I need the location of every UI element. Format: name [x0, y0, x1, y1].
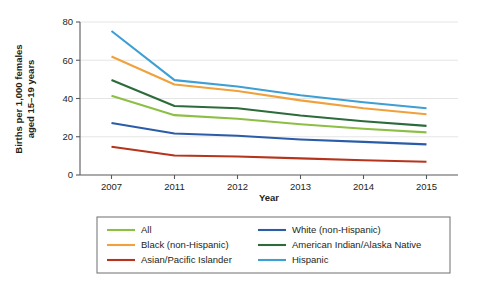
- x-tick-label-2015: 2015: [416, 181, 437, 192]
- y-axis-title-line-1: Births per 1,000 females: [13, 44, 24, 153]
- y-tick-label-20: 20: [62, 131, 73, 142]
- y-tick-label-40: 40: [62, 93, 73, 104]
- x-axis-ticks-group: 200720112012201320142015: [101, 175, 437, 192]
- x-axis-title: Year: [259, 192, 279, 203]
- teen-birth-rate-line-chart: 020406080 200720112012201320142015 Year …: [0, 0, 477, 286]
- legend-label-asian-pacific-islander: Asian/Pacific Islander: [141, 254, 232, 265]
- x-tick-label-2011: 2011: [164, 181, 184, 192]
- series-line-white-non-hispanic: [112, 123, 427, 144]
- x-tick-label-2014: 2014: [353, 181, 374, 192]
- gridlines-group: [80, 22, 458, 137]
- x-tick-label-2012: 2012: [227, 181, 248, 192]
- y-axis-title-line-2: aged 15–19 years: [25, 60, 36, 139]
- y-axis-ticks-group: 020406080: [62, 16, 80, 180]
- series-lines-group: [112, 31, 427, 162]
- legend: AllWhite (non-Hispanic)Black (non-Hispan…: [97, 217, 450, 273]
- legend-label-white-non-hispanic: White (non-Hispanic): [292, 224, 381, 235]
- legend-label-hispanic: Hispanic: [292, 254, 329, 265]
- x-tick-label-2007: 2007: [101, 181, 122, 192]
- series-line-all: [112, 96, 427, 133]
- y-tick-label-0: 0: [68, 169, 73, 180]
- legend-label-all: All: [141, 224, 152, 235]
- series-line-black-non-hispanic: [112, 56, 427, 114]
- y-tick-label-80: 80: [62, 16, 73, 27]
- legend-label-american-indian-alaska-native: American Indian/Alaska Native: [292, 239, 421, 250]
- legend-label-black-non-hispanic: Black (non-Hispanic): [141, 239, 229, 250]
- x-tick-label-2013: 2013: [290, 181, 311, 192]
- series-line-asian-pacific-islander: [112, 147, 427, 162]
- y-tick-label-60: 60: [62, 55, 73, 66]
